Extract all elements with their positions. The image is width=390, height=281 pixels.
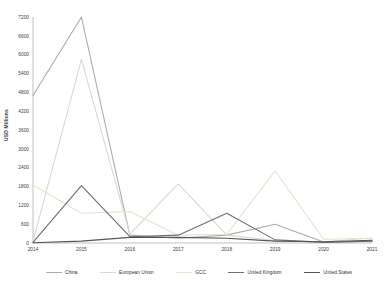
legend-swatch-icon (46, 272, 62, 273)
line-chart-plot: 0600120018002400300036004200480054006000… (0, 0, 390, 258)
legend-item-united-states[interactable]: United States (304, 270, 352, 275)
x-tick-label: 2014 (28, 247, 39, 252)
legend-swatch-icon (100, 272, 116, 273)
y-tick-label: 6000 (18, 52, 29, 57)
legend-item-china[interactable]: China (46, 270, 78, 275)
y-tick-label: 1200 (18, 203, 29, 208)
y-tick-label: 0 (26, 241, 29, 246)
y-axis-title: USD Millions (3, 97, 9, 153)
legend-swatch-icon (228, 272, 244, 273)
y-tick-label: 1800 (18, 184, 29, 189)
chart-legend: ChinaEuropean UnionGCCUnited KingdomUnit… (0, 270, 390, 275)
x-tick-label: 2021 (367, 247, 378, 252)
y-tick-label: 4800 (18, 90, 29, 95)
series-line-gcc (33, 171, 372, 239)
x-tick-label: 2020 (318, 247, 329, 252)
series-line-china (33, 17, 372, 242)
series-line-united-states (33, 237, 372, 242)
y-tick-label: 600 (21, 222, 29, 227)
legend-label: China (65, 270, 78, 275)
x-tick-label: 2019 (270, 247, 281, 252)
x-tick-label: 2018 (221, 247, 232, 252)
x-tick-label: 2015 (76, 247, 87, 252)
legend-item-european-union[interactable]: European Union (100, 270, 154, 275)
legend-item-gcc[interactable]: GCC (176, 270, 206, 275)
line-chart-svg: 0600120018002400300036004200480054006000… (0, 0, 390, 258)
legend-label: United States (323, 270, 352, 275)
y-tick-label: 3600 (18, 128, 29, 133)
chart-container: 0600120018002400300036004200480054006000… (0, 0, 390, 281)
legend-label: European Union (119, 270, 154, 275)
legend-label: United Kingdom (247, 270, 281, 275)
y-tick-label: 6600 (18, 34, 29, 39)
legend-item-united-kingdom[interactable]: United Kingdom (228, 270, 281, 275)
series-line-united-kingdom (33, 186, 372, 243)
y-tick-label: 2400 (18, 165, 29, 170)
series-line-european-union (33, 59, 372, 241)
legend-label: GCC (195, 270, 206, 275)
x-tick-label: 2017 (173, 247, 184, 252)
y-tick-label: 4200 (18, 109, 29, 114)
y-tick-label: 5400 (18, 71, 29, 76)
legend-swatch-icon (176, 272, 192, 273)
x-tick-label: 2016 (125, 247, 136, 252)
y-tick-label: 7200 (18, 15, 29, 20)
legend-swatch-icon (304, 272, 320, 273)
y-tick-label: 3000 (18, 147, 29, 152)
